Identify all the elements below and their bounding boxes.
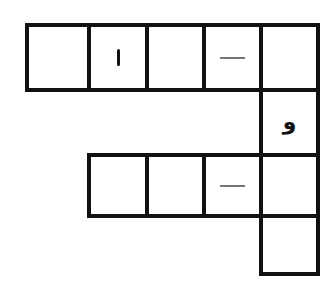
letter-waw: و [283,111,297,133]
dash-marker [220,57,245,59]
grid-cell-r3-c5[interactable] [259,153,320,218]
grid-cell-r1-c1[interactable] [25,23,91,92]
grid-cell-r3-c4[interactable] [202,153,263,218]
grid-cell-r1-c2[interactable] [87,23,149,92]
grid-cell-r1-c5[interactable] [259,23,320,92]
grid-cell-r2-c5[interactable]: و [259,88,320,157]
grid-cell-r1-c4[interactable] [202,23,263,92]
grid-cell-r1-c3[interactable] [145,23,206,92]
grid-cell-r4-c5[interactable] [259,214,320,276]
dash-marker [220,185,245,187]
letter-alef [117,49,120,66]
grid-cell-r3-c3[interactable] [145,153,206,218]
grid-cell-r3-c2[interactable] [87,153,149,218]
